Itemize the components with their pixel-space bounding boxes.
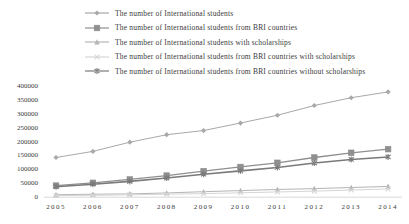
legend-item: The number of International students: [84, 6, 365, 21]
legend-marker-diamond-icon: [84, 8, 110, 18]
x-axis-tick-label: 2009: [194, 203, 214, 211]
x-axis-tick-label: 2005: [46, 203, 66, 211]
series-square: [53, 146, 391, 188]
y-axis-tick-label: 350000: [17, 96, 39, 104]
y-axis-tick-label: 300000: [17, 110, 39, 118]
y-axis-tick-label: 250000: [17, 124, 39, 132]
legend-marker-square-icon: [84, 23, 110, 33]
y-axis-tick-label: 400000: [17, 82, 39, 90]
legend-marker-asterisk-icon: [84, 66, 110, 76]
series-line: [56, 149, 388, 185]
chart-legend: The number of International students The…: [84, 6, 365, 79]
x-axis-tick-label: 2013: [341, 203, 361, 211]
x-axis-tick-label: 2010: [231, 203, 251, 211]
x-axis-tick-label: 2007: [120, 203, 140, 211]
legend-item: The number of International students wit…: [84, 35, 365, 50]
y-axis-tick-label: 150000: [17, 151, 39, 159]
legend-marker-triangle-icon: [84, 37, 110, 47]
y-axis-tick-label: 200000: [17, 138, 39, 146]
legend-label: The number of International students wit…: [115, 38, 291, 47]
x-axis-tick-label: 2012: [304, 203, 324, 211]
chart-figure: 0500001000001500002000002500003000003500…: [0, 0, 409, 224]
legend-label: The number of International students fro…: [115, 67, 365, 76]
legend-item: The number of International students fro…: [84, 64, 365, 79]
series-diamond: [53, 89, 390, 160]
legend-marker-x-icon: [84, 52, 110, 62]
legend-label: The number of International students: [115, 9, 233, 18]
x-axis-tick-label: 2014: [378, 203, 398, 211]
x-axis-tick-label: 2011: [268, 203, 287, 211]
y-axis-tick-label: 0: [35, 193, 39, 201]
legend-label: The number of International students fro…: [115, 52, 355, 61]
series-asterisk: [54, 154, 391, 190]
y-axis-tick-label: 50000: [21, 179, 39, 187]
x-axis-tick-label: 2008: [157, 203, 177, 211]
y-axis-tick-label: 100000: [17, 165, 39, 173]
legend-label: The number of International students fro…: [115, 23, 297, 32]
legend-item: The number of International students fro…: [84, 50, 365, 65]
series-line: [56, 92, 388, 158]
x-axis-tick-label: 2006: [83, 203, 103, 211]
legend-item: The number of International students fro…: [84, 21, 365, 36]
